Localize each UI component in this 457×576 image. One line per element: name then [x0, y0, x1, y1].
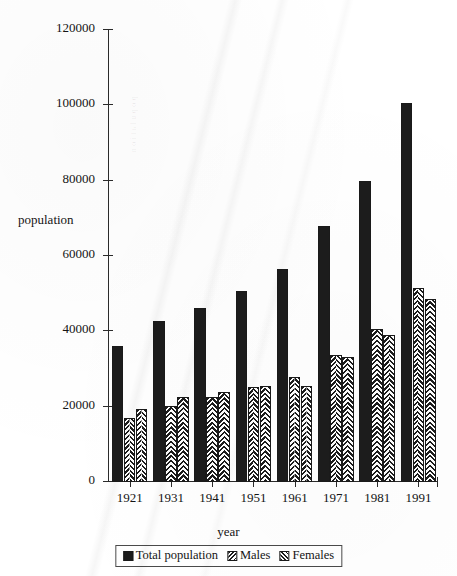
bar-males-1961 — [289, 377, 301, 482]
bar-group-1971 — [318, 30, 354, 482]
bar-total-1991 — [401, 103, 413, 482]
bar-females-1961 — [301, 386, 313, 482]
legend-entry-total-population: Total population — [123, 548, 218, 563]
x-tick-label-1951: 1951 — [233, 490, 273, 506]
bar-females-1991 — [425, 299, 437, 482]
legend-entry-males: Males — [227, 548, 271, 563]
bar-group-1941 — [194, 30, 230, 482]
x-tick-label-1981: 1981 — [357, 490, 397, 506]
y-tick-label-100000: 100000 — [56, 95, 95, 111]
y-axis-line — [108, 30, 109, 482]
bar-females-1921 — [136, 409, 148, 482]
bar-males-1981 — [371, 329, 383, 482]
bar-males-1921 — [124, 418, 136, 482]
x-tick-label-1971: 1971 — [316, 490, 356, 506]
bar-group-1991 — [401, 30, 437, 482]
bar-males-1951 — [248, 387, 260, 482]
chart-legend: Total population Males Females — [115, 545, 342, 567]
bar-total-1971 — [318, 226, 330, 482]
bar-total-1921 — [112, 346, 124, 482]
bar-group-1981 — [359, 30, 395, 482]
y-axis-label: population — [18, 212, 74, 228]
bar-males-1971 — [330, 355, 342, 482]
bar-females-1971 — [342, 357, 354, 482]
x-tick-label-1961: 1961 — [275, 490, 315, 506]
bar-total-1961 — [277, 269, 289, 482]
bar-females-1931 — [177, 397, 189, 483]
legend-swatch-total-population-icon — [123, 551, 133, 561]
bar-total-1951 — [236, 291, 248, 482]
bar-group-1931 — [153, 30, 189, 482]
legend-label-females: Females — [293, 548, 335, 563]
y-tick-label-0: 0 — [89, 472, 96, 488]
x-axis-label: year — [0, 524, 457, 540]
bar-males-1991 — [413, 288, 425, 482]
y-tick-label-20000: 20000 — [63, 397, 96, 413]
legend-label-total-population: Total population — [136, 548, 218, 563]
bar-females-1951 — [260, 386, 272, 482]
bar-total-1941 — [194, 308, 206, 482]
legend-swatch-males-icon — [227, 551, 237, 561]
population-bar-chart: population year 020000400006000080000100… — [0, 0, 457, 576]
x-tick-label-1921: 1921 — [110, 490, 150, 506]
bar-group-1951 — [236, 30, 272, 482]
bar-males-1941 — [206, 397, 218, 482]
plot-area: 020000400006000080000100000120000 — [108, 30, 438, 482]
bar-females-1981 — [383, 335, 395, 482]
bar-total-1931 — [153, 321, 165, 482]
bar-group-1921 — [112, 30, 148, 482]
y-tick-label-60000: 60000 — [63, 246, 96, 262]
x-tick-label-1941: 1941 — [192, 490, 232, 506]
y-tick-label-80000: 80000 — [63, 171, 96, 187]
y-tick-label-40000: 40000 — [63, 321, 96, 337]
x-tick-label-1991: 1991 — [398, 490, 438, 506]
legend-label-males: Males — [240, 548, 271, 563]
bar-total-1981 — [359, 181, 371, 482]
x-tick-end — [437, 477, 438, 487]
bar-males-1931 — [165, 406, 177, 482]
legend-entry-females: Females — [280, 548, 335, 563]
bar-group-1961 — [277, 30, 313, 482]
y-tick-label-120000: 120000 — [56, 20, 95, 36]
x-tick-label-1931: 1931 — [151, 490, 191, 506]
legend-swatch-females-icon — [280, 551, 290, 561]
bar-females-1941 — [218, 392, 230, 482]
